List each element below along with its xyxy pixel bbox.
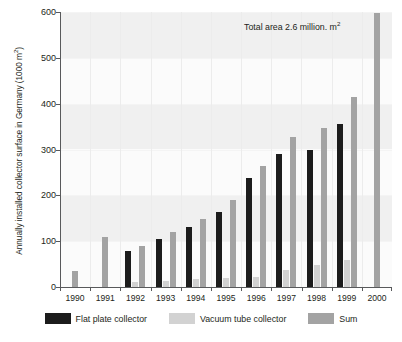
x-axis-tick-label: 1999 xyxy=(332,293,362,307)
y-axis-tick-label: 300 xyxy=(16,145,56,155)
bar xyxy=(290,137,296,287)
bar xyxy=(246,178,252,287)
bar xyxy=(321,128,327,287)
bar xyxy=(283,270,289,287)
bar xyxy=(72,271,78,287)
x-axis-tick-label: 1992 xyxy=(120,293,150,307)
legend-swatch xyxy=(45,313,71,324)
x-axis-tick-mark xyxy=(332,287,362,292)
bar-group xyxy=(151,12,181,287)
bar xyxy=(223,278,229,287)
legend-label: Sum xyxy=(339,314,357,324)
bar xyxy=(216,212,222,287)
total-area-annotation-text: Total area 2.6 million. m xyxy=(244,22,337,32)
legend-item: Vacuum tube collector xyxy=(169,313,286,324)
legend-item: Sum xyxy=(308,313,357,324)
x-axis-tick-mark xyxy=(241,287,271,292)
x-axis-tick-label: 1998 xyxy=(302,293,332,307)
chart-legend: Flat plate collectorVacuum tube collecto… xyxy=(0,313,402,324)
bar xyxy=(374,13,380,287)
x-axis-tick-label: 1994 xyxy=(181,293,211,307)
x-axis-tick-label: 2000 xyxy=(362,293,392,307)
chart-figure: Annually installed collector surface in … xyxy=(0,0,402,342)
x-axis-tick-label: 1991 xyxy=(90,293,120,307)
legend-swatch xyxy=(308,313,334,324)
bar xyxy=(200,219,206,287)
bar xyxy=(102,237,108,287)
y-axis-tick-label: 400 xyxy=(16,99,56,109)
bar xyxy=(156,239,162,287)
x-axis-tick-mark xyxy=(302,287,332,292)
x-axis-labels: 1990199119921993199419951996199719981999… xyxy=(60,293,392,307)
x-axis-tick-mark xyxy=(151,287,181,292)
bar-group xyxy=(302,12,332,287)
bar xyxy=(170,232,176,287)
bar xyxy=(260,166,266,287)
x-axis-tick-label: 1990 xyxy=(60,293,90,307)
legend-label: Vacuum tube collector xyxy=(200,314,286,324)
bar-groups xyxy=(60,12,392,287)
x-axis-tick-mark xyxy=(362,287,392,292)
x-axis-tick-mark xyxy=(181,287,211,292)
bar xyxy=(139,246,145,287)
legend-swatch xyxy=(169,313,195,324)
bar xyxy=(230,200,236,287)
legend-item: Flat plate collector xyxy=(45,313,147,324)
legend-label: Flat plate collector xyxy=(76,314,147,324)
y-axis-tick-label: 600 xyxy=(16,7,56,17)
bar-group xyxy=(120,12,150,287)
y-axis-title-tail: ) xyxy=(14,47,24,50)
bar xyxy=(344,260,350,288)
bar-group xyxy=(362,12,392,287)
bar xyxy=(276,154,282,287)
bar-group xyxy=(60,12,90,287)
bar-group xyxy=(181,12,211,287)
x-axis-tick-mark xyxy=(211,287,241,292)
bar xyxy=(253,277,259,287)
x-axis-tick-label: 1995 xyxy=(211,293,241,307)
bar-group xyxy=(332,12,362,287)
x-axis-tick-label: 1993 xyxy=(151,293,181,307)
y-axis-tick-label: 0 xyxy=(16,282,56,292)
bar xyxy=(314,265,320,287)
bar-group xyxy=(90,12,120,287)
bar xyxy=(307,150,313,288)
bar-group xyxy=(271,12,301,287)
y-axis-tick-label: 500 xyxy=(16,53,56,63)
x-axis-tick-label: 1996 xyxy=(241,293,271,307)
y-axis-tick-label: 200 xyxy=(16,190,56,200)
x-axis-ticks xyxy=(60,287,392,292)
bar xyxy=(337,124,343,287)
x-axis-tick-mark xyxy=(60,287,90,292)
bar-group xyxy=(241,12,271,287)
total-area-annotation: Total area 2.6 million. m2 xyxy=(244,20,340,32)
bar xyxy=(125,251,131,287)
x-axis-tick-label: 1997 xyxy=(271,293,301,307)
x-axis-tick-mark xyxy=(120,287,150,292)
x-axis-tick-mark xyxy=(271,287,301,292)
y-axis-tick-label: 100 xyxy=(16,236,56,246)
total-area-annotation-superscript: 2 xyxy=(337,20,340,27)
bar-group xyxy=(211,12,241,287)
bar xyxy=(186,227,192,287)
x-axis-tick-mark xyxy=(90,287,120,292)
bar xyxy=(351,97,357,287)
bar xyxy=(193,279,199,287)
